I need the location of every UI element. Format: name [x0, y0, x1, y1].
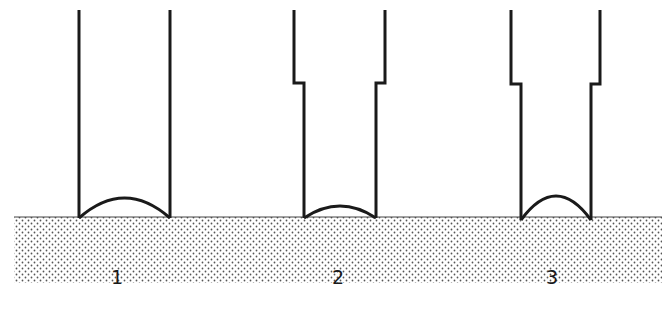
- tube-label-3: 3: [546, 266, 558, 288]
- tube-wall: [511, 10, 600, 220]
- tube-label-1: 1: [111, 266, 123, 288]
- tube-1: [79, 10, 170, 218]
- tube-label-2: 2: [332, 266, 344, 288]
- tube-2: [294, 10, 385, 218]
- tube-3: [511, 10, 600, 220]
- meniscus-arc: [304, 206, 376, 218]
- tubes-group: [79, 10, 600, 220]
- tube-wall: [294, 10, 385, 218]
- tube-wall: [79, 10, 170, 218]
- meniscus-arc: [521, 196, 591, 220]
- meniscus-arc: [79, 198, 170, 218]
